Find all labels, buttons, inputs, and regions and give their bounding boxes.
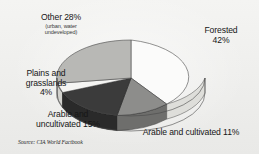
pie-chart-figure: Other 28% (urban, water undeveloped) For… [0, 0, 259, 154]
slice-label-arable-uncultivated-line1: Arable and [48, 109, 89, 119]
slice-label-arable-uncultivated-line2: uncultivated 15% [36, 119, 100, 129]
slice-label-forested-line2: 42% [213, 35, 230, 45]
slice-label-arable-cultivated: Arable and cultivated 11% [130, 128, 252, 138]
slice-label-arable-uncultivated: Arable and uncultivated 15% [20, 110, 116, 129]
source-note: Source: CIA World Factbook [18, 139, 83, 146]
slice-label-plains: Plains and grasslands 4% [10, 69, 82, 98]
slice-label-plains-line1: Plains and [26, 68, 65, 78]
slice-label-plains-line2: grasslands [26, 78, 67, 88]
slice-label-forested: Forested 42% [190, 26, 252, 45]
slice-label-forested-line1: Forested [204, 25, 237, 35]
slice-label-other-title: Other 28% [41, 12, 81, 22]
slice-label-arable-cultivated-line1: Arable and cultivated 11% [143, 127, 240, 137]
slice-label-plains-line3: 4% [40, 87, 52, 97]
slice-label-other-subtitle-line2: undeveloped) [22, 29, 100, 35]
slice-label-other: Other 28% (urban, water undeveloped) [22, 13, 100, 35]
